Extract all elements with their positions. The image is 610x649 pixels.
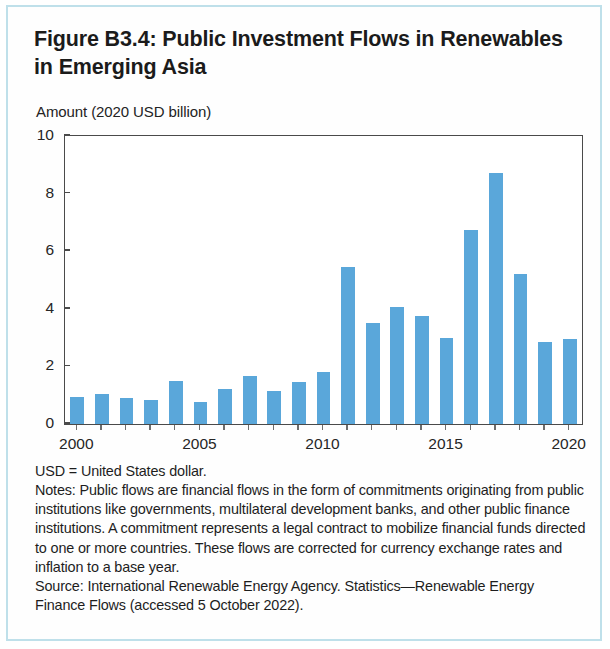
y-tick-mark xyxy=(64,134,70,136)
note-source: Source: International Renewable Energy A… xyxy=(35,577,587,615)
bar-2020 xyxy=(563,339,577,424)
x-tick-mark xyxy=(371,425,372,430)
x-tick-label: 2005 xyxy=(182,435,216,453)
x-tick-mark xyxy=(470,425,471,430)
bar-2001 xyxy=(95,394,109,424)
y-tick-mark xyxy=(64,365,70,367)
bar-2013 xyxy=(390,307,404,424)
y-tick-mark xyxy=(64,307,70,309)
bar-2016 xyxy=(464,230,478,424)
x-tick-mark xyxy=(568,425,569,430)
x-tick-mark xyxy=(346,425,347,430)
y-tick-label: 2 xyxy=(20,357,54,373)
x-tick-mark xyxy=(125,425,126,430)
bar-2010 xyxy=(317,372,331,424)
bar-2007 xyxy=(243,376,257,424)
bar-2008 xyxy=(267,391,281,424)
x-tick-mark xyxy=(420,425,421,430)
note-abbreviation: USD = United States dollar. xyxy=(35,462,587,481)
bar-2006 xyxy=(218,389,232,424)
bar-2005 xyxy=(194,402,208,424)
y-tick-label: 6 xyxy=(20,242,54,258)
y-tick-mark xyxy=(64,249,70,251)
x-tick-label: 2010 xyxy=(305,435,339,453)
x-tick-mark xyxy=(149,425,150,430)
x-tick-mark xyxy=(174,425,175,430)
figure-container: Figure B3.4: Public Investment Flows in … xyxy=(6,5,602,641)
x-tick-label: 2000 xyxy=(59,435,93,453)
bar-2011 xyxy=(341,267,355,424)
x-tick-mark xyxy=(519,425,520,430)
x-tick-mark xyxy=(100,425,101,430)
bar-2015 xyxy=(440,338,454,424)
y-tick-label: 4 xyxy=(20,300,54,316)
y-tick-mark xyxy=(64,422,70,424)
bar-2014 xyxy=(415,316,429,424)
bar-2000 xyxy=(70,397,84,424)
bar-2019 xyxy=(538,342,552,424)
note-body: Notes: Public flows are financial flows … xyxy=(35,481,587,577)
bar-2003 xyxy=(144,400,158,424)
x-tick-mark xyxy=(494,425,495,430)
y-tick-label: 0 xyxy=(20,415,54,431)
bar-2009 xyxy=(292,382,306,424)
bar-2004 xyxy=(169,381,183,424)
bar-2018 xyxy=(514,274,528,424)
x-tick-mark xyxy=(76,425,77,430)
x-tick-mark xyxy=(396,425,397,430)
x-tick-mark xyxy=(248,425,249,430)
figure-inner: Figure B3.4: Public Investment Flows in … xyxy=(8,7,600,639)
y-tick-label: 10 xyxy=(20,127,54,143)
bar-2002 xyxy=(120,398,134,424)
bar-2012 xyxy=(366,323,380,424)
x-tick-mark xyxy=(297,425,298,430)
x-tick-mark xyxy=(322,425,323,430)
x-tick-mark xyxy=(223,425,224,430)
x-tick-mark xyxy=(543,425,544,430)
x-tick-label: 2020 xyxy=(551,435,585,453)
x-tick-mark xyxy=(445,425,446,430)
plot-area xyxy=(64,135,583,425)
x-tick-mark xyxy=(273,425,274,430)
bars-layer xyxy=(65,136,582,424)
y-tick-label: 8 xyxy=(20,185,54,201)
figure-notes: USD = United States dollar. Notes: Publi… xyxy=(35,462,587,615)
bar-2017 xyxy=(489,173,503,424)
x-tick-mark xyxy=(199,425,200,430)
y-tick-mark xyxy=(64,192,70,194)
x-tick-label: 2015 xyxy=(428,435,462,453)
